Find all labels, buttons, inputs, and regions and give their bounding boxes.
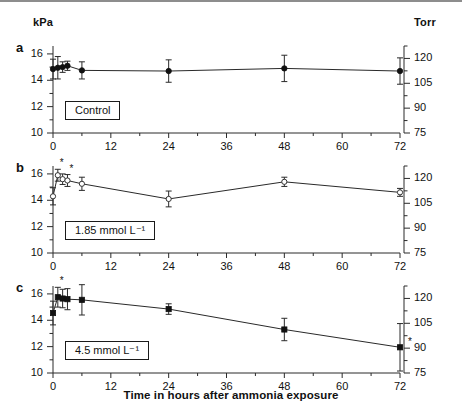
x-tick-label: 24 bbox=[156, 380, 182, 392]
x-tick-label: 60 bbox=[329, 140, 355, 152]
y-tick-label-left: 10 bbox=[21, 366, 43, 378]
data-point bbox=[397, 68, 402, 73]
data-point bbox=[397, 190, 402, 195]
data-point bbox=[166, 68, 171, 73]
significance-asterisk: * bbox=[60, 157, 64, 168]
y-tick-label-right: 90 bbox=[414, 101, 440, 113]
x-tick-label: 36 bbox=[214, 380, 240, 392]
data-point bbox=[79, 181, 84, 186]
panel-letter-c: c bbox=[16, 280, 23, 295]
y-tick-label-right: 120 bbox=[414, 291, 440, 303]
panel-letter-b: b bbox=[16, 160, 24, 175]
x-tick-label: 12 bbox=[98, 260, 124, 272]
data-point bbox=[65, 297, 70, 302]
y-tick-label-right: 90 bbox=[414, 341, 440, 353]
x-tick-label: 72 bbox=[387, 260, 413, 272]
y-tick-label-left: 12 bbox=[21, 220, 43, 232]
x-tick-label: 0 bbox=[40, 140, 66, 152]
x-tick-label: 12 bbox=[98, 380, 124, 392]
y-tick-label-left: 14 bbox=[21, 73, 43, 85]
data-point bbox=[79, 68, 84, 73]
y-tick-label-right: 75 bbox=[414, 126, 440, 138]
significance-asterisk: * bbox=[408, 336, 412, 347]
significance-asterisk: * bbox=[60, 275, 64, 286]
y-tick-label-left: 10 bbox=[21, 126, 43, 138]
data-point bbox=[55, 173, 60, 178]
y-tick-label-left: 16 bbox=[21, 167, 43, 179]
data-point bbox=[79, 297, 84, 302]
data-point bbox=[50, 194, 55, 199]
panel-b: ** bbox=[47, 157, 410, 258]
legend-box-a: Control bbox=[65, 101, 120, 121]
y-tick-label-right: 120 bbox=[414, 51, 440, 63]
legend-box-c: 4.5 mmol L⁻¹ bbox=[65, 341, 149, 361]
x-tick-label: 48 bbox=[271, 380, 297, 392]
y-tick-label-left: 10 bbox=[21, 246, 43, 258]
panel-letter-a: a bbox=[16, 40, 23, 55]
series-line bbox=[53, 175, 400, 199]
y-tick-label-left: 16 bbox=[21, 287, 43, 299]
x-tick-label: 60 bbox=[329, 260, 355, 272]
x-tick-label: 60 bbox=[329, 380, 355, 392]
y-tick-label-left: 14 bbox=[21, 193, 43, 205]
data-point bbox=[166, 196, 171, 201]
x-tick-label: 0 bbox=[40, 380, 66, 392]
y-tick-label-right: 105 bbox=[414, 316, 440, 328]
series-line bbox=[53, 66, 400, 71]
y-tick-label-right: 75 bbox=[414, 366, 440, 378]
x-tick-label: 36 bbox=[214, 140, 240, 152]
x-tick-label: 72 bbox=[387, 380, 413, 392]
legend-box-b: 1.85 mmol L⁻¹ bbox=[65, 221, 155, 241]
data-point bbox=[65, 178, 70, 183]
data-point bbox=[397, 345, 402, 350]
x-tick-label: 24 bbox=[156, 260, 182, 272]
y-tick-label-left: 12 bbox=[21, 100, 43, 112]
data-point bbox=[282, 66, 287, 71]
panel-c: ** bbox=[47, 275, 412, 378]
x-tick-label: 12 bbox=[98, 140, 124, 152]
y-tick-label-left: 12 bbox=[21, 340, 43, 352]
figure-root: kPa Torr **** Time in hours after ammoni… bbox=[0, 0, 462, 413]
x-tick-label: 0 bbox=[40, 260, 66, 272]
data-point bbox=[282, 327, 287, 332]
data-point bbox=[50, 310, 55, 315]
y-tick-label-right: 105 bbox=[414, 196, 440, 208]
y-tick-label-right: 120 bbox=[414, 171, 440, 183]
x-tick-label: 48 bbox=[271, 140, 297, 152]
y-tick-label-left: 16 bbox=[21, 47, 43, 59]
y-tick-label-left: 14 bbox=[21, 313, 43, 325]
x-tick-label: 36 bbox=[214, 260, 240, 272]
panel-a bbox=[47, 46, 410, 138]
data-point bbox=[65, 63, 70, 68]
x-tick-label: 48 bbox=[271, 260, 297, 272]
data-point bbox=[282, 179, 287, 184]
significance-asterisk: * bbox=[69, 163, 73, 174]
x-tick-label: 72 bbox=[387, 140, 413, 152]
data-point bbox=[166, 306, 171, 311]
x-tick-label: 24 bbox=[156, 140, 182, 152]
y-tick-label-right: 90 bbox=[414, 221, 440, 233]
y-tick-label-right: 75 bbox=[414, 246, 440, 258]
y-tick-label-right: 105 bbox=[414, 76, 440, 88]
